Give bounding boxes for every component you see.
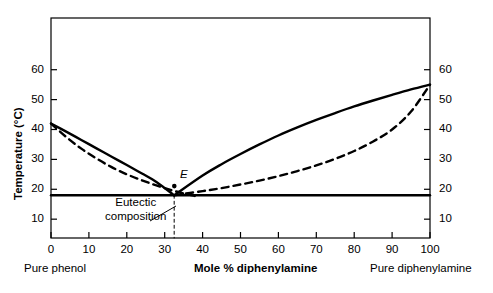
x-tick-label-20: 20 — [107, 244, 147, 256]
y-tick-label-right-20: 20 — [439, 183, 469, 195]
x-axis-right-end-label: Pure diphenylamine — [370, 262, 472, 274]
chart-figure: Temperature (°C) Mole % diphenylamine Pu… — [0, 0, 493, 293]
eutectic-point-marker — [172, 184, 177, 189]
x-tick-label-0: 0 — [31, 244, 71, 256]
x-axis-ticks — [51, 232, 430, 238]
x-tick-label-30: 30 — [145, 244, 185, 256]
x-tick-label-10: 10 — [69, 244, 109, 256]
y-tick-label-right-60: 60 — [439, 64, 469, 76]
y-tick-label-right-10: 10 — [439, 213, 469, 225]
x-tick-label-50: 50 — [221, 244, 261, 256]
y-tick-label-left-30: 30 — [14, 153, 44, 165]
y-tick-label-left-10: 10 — [14, 213, 44, 225]
x-tick-label-70: 70 — [296, 244, 336, 256]
series-ideal-solubility-diphenylamine-branch — [174, 85, 430, 196]
y-tick-label-left-60: 60 — [14, 64, 44, 76]
series-liquidus-diphenylamine-branch — [174, 85, 430, 196]
y-tick-label-left-40: 40 — [14, 123, 44, 135]
x-tick-label-60: 60 — [258, 244, 298, 256]
eutectic-note-line-2: composition — [105, 209, 166, 223]
x-tick-label-100: 100 — [410, 244, 450, 256]
x-axis-left-end-label: Pure phenol — [24, 262, 86, 274]
eutectic-composition-annotation: Eutectic composition — [105, 195, 166, 224]
x-tick-label-40: 40 — [183, 244, 223, 256]
y-tick-label-right-50: 50 — [439, 94, 469, 106]
y-tick-label-right-30: 30 — [439, 153, 469, 165]
y-tick-label-left-50: 50 — [14, 94, 44, 106]
y-tick-label-left-20: 20 — [14, 183, 44, 195]
x-axis-title: Mole % diphenylamine — [194, 262, 317, 274]
eutectic-note-line-1: Eutectic — [105, 195, 166, 209]
x-tick-label-90: 90 — [372, 244, 412, 256]
x-tick-label-80: 80 — [334, 244, 374, 256]
eutectic-point-label: E — [180, 168, 188, 180]
y-tick-label-right-40: 40 — [439, 123, 469, 135]
y-axis-left-ticks — [51, 70, 57, 219]
